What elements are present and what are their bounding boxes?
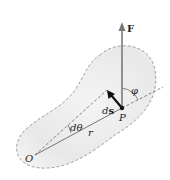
dtheta-label: dθ [70, 122, 82, 133]
force-arrowhead [119, 22, 126, 31]
rigid-body-rotation-diagram: F φ ds P dθ r O [0, 0, 170, 180]
point-p-label: P [118, 112, 126, 123]
ds-label: ds [102, 105, 114, 116]
rigid-body-outline [17, 46, 156, 168]
phi-label: φ [131, 85, 138, 96]
origin-label: O [25, 153, 33, 164]
point-p-marker [120, 106, 124, 110]
force-label: F [127, 23, 134, 34]
